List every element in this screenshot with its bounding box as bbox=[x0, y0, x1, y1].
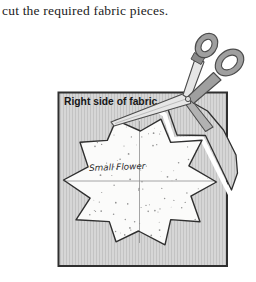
scissors-pivot bbox=[185, 96, 190, 101]
book-page: cut the required fabric pieces. Right si… bbox=[0, 0, 256, 282]
fabric-cutting-diagram: Right side of fabric Small Flower bbox=[0, 0, 256, 282]
fabric-side-label: Right side of fabric bbox=[64, 96, 158, 107]
template-label: Small Flower bbox=[89, 161, 147, 173]
